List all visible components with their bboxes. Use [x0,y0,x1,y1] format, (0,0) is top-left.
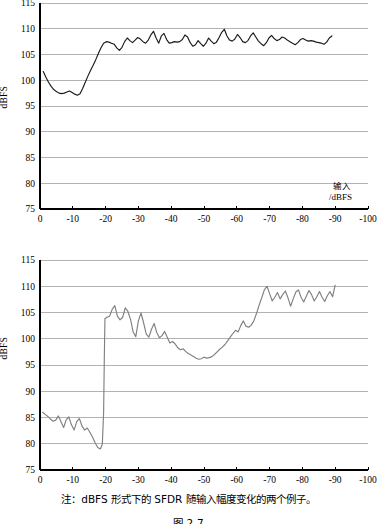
chart-top: 75808590951001051101150-10-20-30-40-50-6… [0,0,377,240]
svg-text:-10: -10 [66,475,79,485]
series-line [43,29,332,95]
svg-text:-80: -80 [296,214,309,224]
y-axis-label-top: dBFS [0,86,9,108]
x-axis-label-top-cn: 输入 [329,181,352,192]
svg-text:115: 115 [21,255,35,265]
svg-text:-100: -100 [359,214,377,224]
svg-text:115: 115 [21,0,35,8]
figure-number: 图 2-7 [0,515,377,524]
svg-text:95: 95 [26,360,36,370]
series-line [43,285,336,449]
svg-text:-100: -100 [359,475,377,485]
svg-text:-30: -30 [132,214,145,224]
svg-text:0: 0 [38,214,43,224]
svg-text:-30: -30 [132,475,145,485]
figure-caption: 注：dBFS 形式下的 SFDR 随输入幅度变化的两个例子。 [0,491,377,506]
svg-text:-90: -90 [329,475,342,485]
x-axis-label-top: 输入 /dBFS [329,181,352,202]
svg-text:105: 105 [21,50,36,60]
svg-text:-40: -40 [165,475,178,485]
svg-text:-60: -60 [230,214,243,224]
y-axis-label-bottom: dBFS [0,337,9,359]
svg-text:-50: -50 [198,475,211,485]
svg-text:75: 75 [26,204,36,214]
svg-text:-40: -40 [165,214,178,224]
svg-text:-80: -80 [296,475,309,485]
svg-text:-70: -70 [263,214,276,224]
svg-text:100: 100 [21,76,36,86]
svg-text:90: 90 [26,387,36,397]
svg-text:85: 85 [26,413,36,423]
svg-text:-10: -10 [66,214,79,224]
svg-text:85: 85 [26,153,36,163]
svg-text:0: 0 [38,475,43,485]
svg-text:-60: -60 [230,475,243,485]
svg-text:-20: -20 [99,214,112,224]
svg-text:110: 110 [21,24,35,34]
svg-text:110: 110 [21,282,35,292]
chart-bottom: 75808590951001051101150-10-20-30-40-50-6… [0,255,377,490]
svg-text:80: 80 [26,439,36,449]
svg-text:95: 95 [26,101,36,111]
svg-text:-90: -90 [329,214,342,224]
chart-bottom-plot: 75808590951001051101150-10-20-30-40-50-6… [0,255,377,490]
svg-text:-20: -20 [99,475,112,485]
svg-text:105: 105 [21,308,36,318]
svg-text:-50: -50 [198,214,211,224]
x-axis-label-top-unit: /dBFS [329,192,352,203]
svg-text:-70: -70 [263,475,276,485]
svg-text:80: 80 [26,179,36,189]
svg-text:75: 75 [26,465,36,475]
chart-top-plot: 75808590951001051101150-10-20-30-40-50-6… [0,0,377,240]
svg-text:90: 90 [26,127,36,137]
figure-page: 75808590951001051101150-10-20-30-40-50-6… [0,0,377,524]
svg-text:100: 100 [21,334,36,344]
